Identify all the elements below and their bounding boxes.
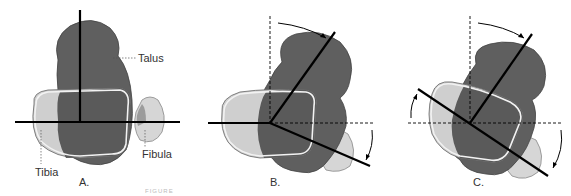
- panel-b-label: B.: [270, 176, 280, 188]
- panel-a: Talus Tibia Fibula A.: [0, 0, 190, 196]
- ankle-diagram-rotated-b: B.: [190, 0, 380, 196]
- ankle-diagram-neutral: Talus Tibia Fibula A.: [0, 0, 190, 196]
- panel-c-label: C.: [473, 176, 484, 188]
- rotation-arrow-right: [553, 130, 562, 168]
- rotation-arrow-top: [478, 23, 524, 38]
- figure-caption-cropped: FIGURE: [145, 188, 435, 194]
- arrowhead-icon: [553, 162, 557, 168]
- ankle-diagram-rotated-c: C.: [380, 0, 571, 196]
- panel-a-label: A.: [79, 176, 89, 188]
- panel-c: C.: [380, 0, 571, 196]
- panel-b: B.: [190, 0, 380, 196]
- arrowhead-icon: [366, 154, 370, 160]
- tibia-label: Tibia: [35, 166, 59, 178]
- fibula-label: Fibula: [142, 148, 173, 160]
- talus-label: Talus: [138, 52, 164, 64]
